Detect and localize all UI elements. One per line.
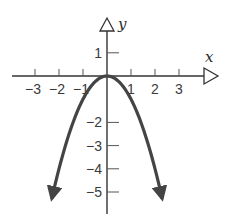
y-tick-label: 1 bbox=[94, 45, 102, 61]
x-tick-label: −2 bbox=[49, 81, 65, 97]
y-axis-label: y bbox=[117, 15, 127, 33]
y-axis bbox=[100, 18, 114, 214]
y-axis-arrow-icon bbox=[100, 18, 114, 31]
y-tick-label: −2 bbox=[86, 114, 102, 130]
x-tick-label: 2 bbox=[151, 81, 159, 97]
y-tick-label: −3 bbox=[86, 138, 102, 154]
parabola-graph: x y −3−2−1123 1−2−3−4−5 bbox=[0, 0, 230, 214]
x-axis bbox=[12, 68, 218, 84]
y-tick-label: −4 bbox=[86, 161, 102, 177]
x-tick-label: −3 bbox=[25, 81, 41, 97]
y-ticks: 1−2−3−4−5 bbox=[86, 45, 119, 200]
x-axis-arrow-icon bbox=[204, 68, 218, 84]
x-tick-label: 3 bbox=[175, 81, 183, 97]
x-axis-label: x bbox=[205, 48, 214, 66]
y-tick-label: −5 bbox=[86, 184, 102, 200]
x-ticks: −3−2−1123 bbox=[25, 69, 183, 97]
